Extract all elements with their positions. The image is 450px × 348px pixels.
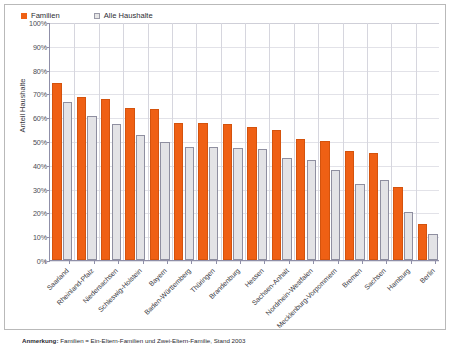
footnote-text: Familien = Ein-Eltern-Familien und Zwei-… [60, 337, 245, 344]
bar-group[interactable] [245, 23, 269, 260]
bar-familien[interactable] [320, 141, 329, 260]
chart-footnote: Anmerkung: Familien = Ein-Eltern-Familie… [22, 337, 442, 347]
x-axis-label: Hessen [119, 267, 265, 348]
y-axis-tick-label: 30% [9, 185, 47, 194]
bar-group[interactable] [148, 23, 172, 260]
bar-familien[interactable] [272, 130, 281, 260]
bar-group[interactable] [50, 23, 74, 260]
bar-familien[interactable] [296, 139, 305, 260]
bar-alle-haushalte[interactable] [307, 160, 316, 260]
x-axis-label: Thüringen [70, 267, 216, 348]
bar-familien[interactable] [369, 153, 378, 260]
y-axis-tick-label: 0% [9, 257, 47, 266]
x-axis-label: Sachsen [241, 267, 387, 348]
bar-familien[interactable] [393, 187, 402, 260]
bar-group[interactable] [343, 23, 367, 260]
bar-familien[interactable] [223, 124, 232, 260]
bar-familien[interactable] [345, 151, 354, 260]
chart-container: Anteil Haushalte 0%10%20%30%40%50%60%70%… [0, 0, 450, 348]
y-axis-tick-label: 10% [9, 233, 47, 242]
y-axis-tick-label: 90% [9, 42, 47, 51]
plot-area [49, 23, 439, 261]
bar-group[interactable] [269, 23, 293, 260]
x-axis-label: Mecklenburg-Vorpommern [192, 267, 338, 348]
bar-group[interactable] [99, 23, 123, 260]
bar-familien[interactable] [125, 108, 134, 260]
x-axis-tick-mark [240, 261, 241, 264]
bar-alle-haushalte[interactable] [233, 148, 242, 260]
x-axis-label: Bremen [216, 267, 362, 348]
bar-familien[interactable] [418, 224, 427, 260]
bar-group[interactable] [367, 23, 391, 260]
bar-alle-haushalte[interactable] [136, 135, 145, 260]
bar-alle-haushalte[interactable] [87, 116, 96, 260]
bar-alle-haushalte[interactable] [63, 102, 72, 260]
x-axis-label: Niedersachsen [0, 267, 119, 348]
bar-alle-haushalte[interactable] [209, 147, 218, 260]
x-axis-label: Schleswig-Holstein [0, 267, 143, 348]
gridline [50, 261, 439, 262]
x-axis-tick-mark [338, 261, 339, 264]
x-axis-tick-mark [167, 261, 168, 264]
bar-group[interactable] [74, 23, 98, 260]
bar-group[interactable] [416, 23, 440, 260]
chart-legend: Familien Alle Haushalte [21, 11, 153, 20]
bar-group[interactable] [123, 23, 147, 260]
bar-alle-haushalte[interactable] [380, 180, 389, 260]
x-axis-tick-mark [45, 261, 46, 264]
x-axis-label: Hamburg [265, 267, 411, 348]
x-axis-tick-mark [289, 261, 290, 264]
bar-group[interactable] [221, 23, 245, 260]
bar-alle-haushalte[interactable] [160, 142, 169, 260]
x-axis-label: Brandenburg [94, 267, 240, 348]
legend-swatch-icon-familien [21, 13, 27, 19]
x-axis-tick-mark [118, 261, 119, 264]
y-axis-tick-label: 20% [9, 209, 47, 218]
legend-swatch-icon-alle-haushalte [94, 13, 100, 19]
x-axis-tick-mark [69, 261, 70, 264]
bar-alle-haushalte[interactable] [258, 149, 267, 260]
x-axis-label: Baden-Württemberg [46, 267, 192, 348]
legend-label-alle-haushalte: Alle Haushalte [104, 11, 153, 20]
bar-familien[interactable] [150, 109, 159, 260]
bar-alle-haushalte[interactable] [282, 158, 291, 260]
bar-alle-haushalte[interactable] [331, 170, 340, 260]
x-axis-label: Bayern [21, 267, 167, 348]
x-axis-tick-mark [313, 261, 314, 264]
bar-group[interactable] [318, 23, 342, 260]
footnote-label: Anmerkung: [22, 337, 58, 344]
legend-label-familien: Familien [31, 11, 60, 20]
x-axis-label: Berlin [289, 267, 435, 348]
x-axis-tick-mark [216, 261, 217, 264]
x-axis-tick-mark [143, 261, 144, 264]
bar-group[interactable] [172, 23, 196, 260]
bars-layer [50, 23, 439, 260]
bar-group[interactable] [391, 23, 415, 260]
y-axis-tick-label: 50% [9, 138, 47, 147]
y-axis-tick-label: 40% [9, 161, 47, 170]
x-axis-label: Sachsen-Anhalt [143, 267, 289, 348]
x-axis-tick-mark [435, 261, 436, 264]
y-axis-ticks: 0%10%20%30%40%50%60%70%80%90%100% [5, 23, 47, 261]
x-axis-label: Nordrhein-Westfalen [168, 267, 314, 348]
legend-entry-familien: Familien [21, 11, 60, 20]
bar-alle-haushalte[interactable] [428, 234, 437, 260]
bar-alle-haushalte[interactable] [404, 212, 413, 260]
bar-alle-haushalte[interactable] [112, 124, 121, 260]
x-axis-tick-mark [386, 261, 387, 264]
bar-alle-haushalte[interactable] [355, 184, 364, 260]
bar-familien[interactable] [247, 127, 256, 260]
bar-familien[interactable] [174, 123, 183, 260]
bar-familien[interactable] [101, 99, 110, 260]
bar-familien[interactable] [198, 123, 207, 260]
x-axis-tick-mark [191, 261, 192, 264]
bar-group[interactable] [294, 23, 318, 260]
legend-entry-alle-haushalte: Alle Haushalte [94, 11, 153, 20]
x-axis-tick-mark [362, 261, 363, 264]
bar-familien[interactable] [52, 83, 61, 260]
y-axis-tick-label: 70% [9, 90, 47, 99]
bar-group[interactable] [196, 23, 220, 260]
bar-familien[interactable] [77, 97, 86, 260]
x-axis-tick-mark [411, 261, 412, 264]
bar-alle-haushalte[interactable] [185, 147, 194, 260]
